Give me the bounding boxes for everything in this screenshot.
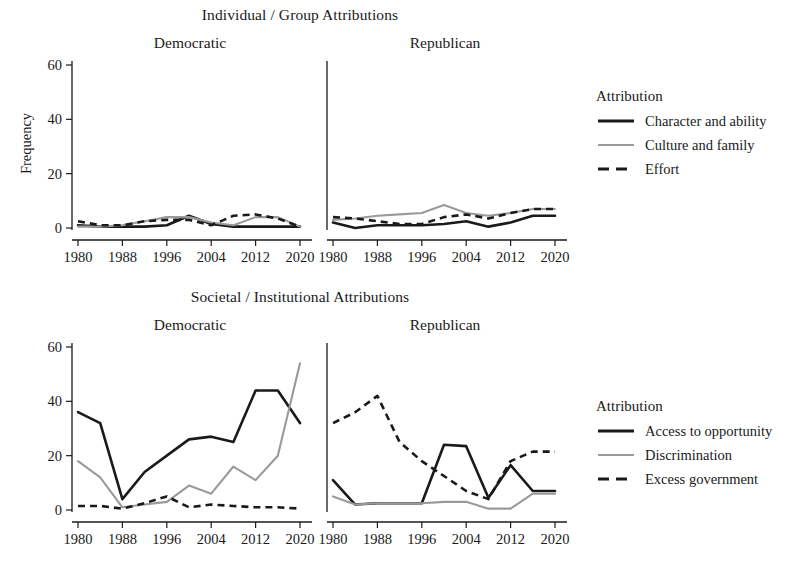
- x-tick-label: 2020: [286, 531, 315, 547]
- x-tick-label: 1996: [407, 531, 436, 547]
- y-tick-label: 40: [48, 393, 63, 409]
- x-tick-label: 1988: [108, 249, 137, 265]
- x-tick-label: 1996: [152, 249, 181, 265]
- series-line-access-to-opportunity: [78, 390, 300, 499]
- legend-item-culture-and-family[interactable]: Culture and family: [596, 133, 767, 157]
- legend-label-effort: Effort: [645, 162, 679, 177]
- figure-root: Individual / Group Attributions Democrat…: [0, 0, 803, 562]
- legend-key-solid-light: [596, 448, 636, 462]
- legend-key-solid-dark: [596, 424, 636, 438]
- legend-label-culture-and-family: Culture and family: [645, 138, 755, 153]
- x-tick-label: 2004: [452, 249, 482, 265]
- x-tick-label: 1980: [319, 249, 348, 265]
- facet-republican: 198019881996200420122020: [319, 343, 570, 547]
- x-tick-label: 1996: [407, 249, 436, 265]
- legend-item-excess-government[interactable]: Excess government: [596, 467, 772, 491]
- x-tick-label: 2012: [241, 249, 270, 265]
- x-tick-label: 2012: [241, 531, 270, 547]
- x-tick-label: 1996: [152, 531, 181, 547]
- legend-label-character-and-ability: Character and ability: [645, 114, 767, 129]
- y-tick-label: 60: [48, 57, 63, 73]
- legend-top: Attribution Character and ability Cultur…: [596, 88, 767, 181]
- facet-democratic: 0204060198019881996200420122020: [48, 57, 315, 265]
- x-tick-label: 2012: [496, 249, 525, 265]
- x-tick-label: 1988: [108, 531, 137, 547]
- x-tick-label: 2012: [496, 531, 525, 547]
- legend-item-discrimination[interactable]: Discrimination: [596, 443, 772, 467]
- y-tick-label: 0: [55, 502, 62, 518]
- y-tick-label: 20: [48, 166, 63, 182]
- x-tick-label: 2020: [541, 531, 570, 547]
- series-line-discrimination: [333, 494, 555, 509]
- legend-label-access-to-opportunity: Access to opportunity: [645, 424, 772, 439]
- legend-key-dashed: [596, 472, 636, 486]
- y-tick-label: 20: [48, 448, 63, 464]
- legend-key-solid-light: [596, 138, 636, 152]
- legend-item-character-and-ability[interactable]: Character and ability: [596, 109, 767, 133]
- x-tick-label: 1980: [64, 249, 93, 265]
- legend-label-discrimination: Discrimination: [645, 448, 732, 463]
- legend-title-top: Attribution: [596, 88, 767, 105]
- series-line-discrimination: [78, 363, 300, 507]
- facet-democratic: 0204060198019881996200420122020: [48, 339, 315, 547]
- x-tick-label: 1988: [363, 249, 392, 265]
- legend-item-effort[interactable]: Effort: [596, 157, 767, 181]
- x-tick-label: 1980: [64, 531, 93, 547]
- legend-key-solid-dark: [596, 114, 636, 128]
- x-tick-label: 2004: [452, 531, 482, 547]
- x-tick-label: 2020: [286, 249, 315, 265]
- series-line-excess-government: [78, 496, 300, 508]
- y-tick-label: 60: [48, 339, 63, 355]
- x-tick-label: 2020: [541, 249, 570, 265]
- x-tick-label: 1988: [363, 531, 392, 547]
- y-tick-label: 0: [55, 220, 62, 236]
- x-tick-label: 1980: [319, 531, 348, 547]
- panel-individual-group: Individual / Group Attributions Democrat…: [0, 0, 803, 282]
- legend-title-bottom: Attribution: [596, 398, 772, 415]
- legend-label-excess-government: Excess government: [645, 472, 758, 487]
- x-tick-label: 2004: [197, 249, 227, 265]
- legend-key-dashed: [596, 162, 636, 176]
- x-tick-label: 2004: [197, 531, 227, 547]
- y-tick-label: 40: [48, 111, 63, 127]
- panel-societal-institutional: Societal / Institutional Attributions De…: [0, 282, 803, 562]
- legend-item-access-to-opportunity[interactable]: Access to opportunity: [596, 419, 772, 443]
- legend-bottom: Attribution Access to opportunity Discri…: [596, 398, 772, 491]
- facet-republican: 198019881996200420122020: [319, 61, 570, 265]
